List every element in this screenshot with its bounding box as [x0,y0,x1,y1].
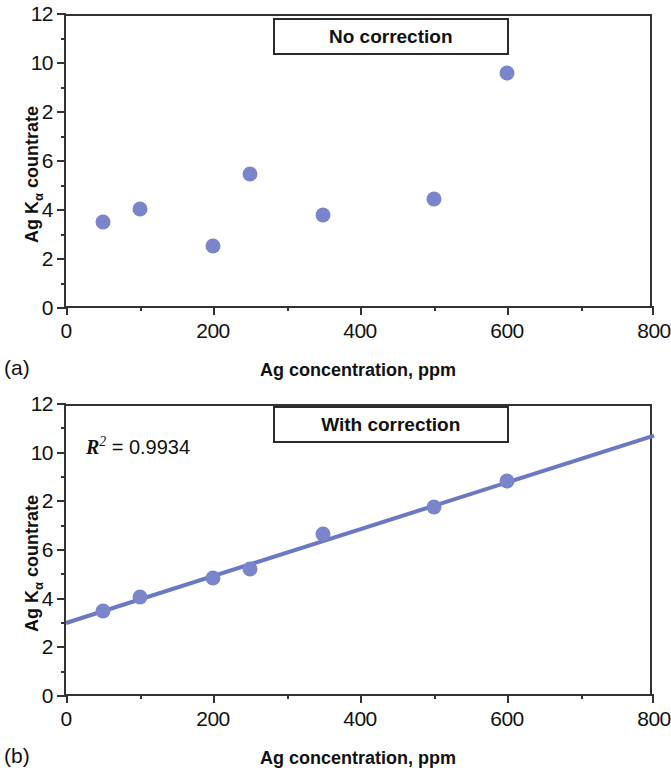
y-tick-label-10: 10 [31,51,53,75]
y-tick-2 [57,646,66,648]
y-minor-tick-5 [61,185,66,187]
panel-b-with-correction: 0246210120200400600800 With correction R… [0,390,670,772]
y-tick-label-10: 10 [31,441,53,465]
x-tick-label-400: 400 [343,319,377,343]
x-tick-label-0: 0 [60,319,71,343]
plot-area-a: 0246210120200400600800 [64,14,652,308]
x-tick-label-200: 200 [196,707,230,731]
data-point [206,570,221,585]
y-tick-label-0: 0 [42,684,53,708]
x-tick-label-600: 600 [490,707,524,731]
data-point [316,527,331,542]
plot-a: 0246210120200400600800 No correction [64,14,652,308]
y-tick-2 [57,258,66,260]
data-point [500,473,515,488]
panel-label-b: (b) [4,744,30,768]
y-tick-label-2: 2 [42,635,53,659]
x-tick-200 [213,306,215,315]
data-point [426,191,441,206]
x-tick-label-400: 400 [343,707,377,731]
y-minor-tick-1 [61,283,66,285]
y-axis-title-b: Ag Kα countrate [22,495,46,632]
y-tick-0 [57,307,66,309]
data-point [500,65,515,80]
panel-b-title-box: With correction [273,406,509,443]
panel-a-title-box: No correction [273,18,509,55]
x-tick-400 [360,306,362,315]
x-tick-0 [66,306,68,315]
y-tick-label-12: 12 [31,2,53,26]
x-axis-title-b: Ag concentration, ppm [260,748,456,769]
x-minor-tick-300 [287,306,289,311]
data-point [95,603,110,618]
y-tick-10 [57,452,66,454]
y-tick-6 [57,160,66,162]
x-minor-tick-100 [140,306,142,311]
y-tick-6 [57,549,66,551]
y-tick-8 [57,111,66,113]
panel-label-a: (a) [4,356,30,380]
y-minor-tick-3 [61,234,66,236]
data-point [242,167,257,182]
x-tick-600 [507,306,509,315]
data-point [132,590,147,605]
y-tick-label-2: 2 [42,247,53,271]
data-point [95,215,110,230]
panel-a-no-correction: 0246210120200400600800 No correction Ag … [0,0,670,390]
x-minor-tick-700 [581,306,583,311]
y-tick-label-12: 12 [31,392,53,416]
x-axis-title-a: Ag concentration, ppm [260,360,456,381]
x-tick-label-200: 200 [196,319,230,343]
plot-right-border-a [650,14,652,308]
data-point [132,201,147,216]
data-point [206,238,221,253]
y-tick-8 [57,500,66,502]
plot-b: 0246210120200400600800 With correction R… [64,404,652,696]
y-tick-label-0: 0 [42,296,53,320]
data-point [426,500,441,515]
y-tick-4 [57,598,66,600]
data-point [316,207,331,222]
y-minor-tick-11 [61,38,66,40]
r-squared-annotation: R2 = 0.9934 [86,434,190,459]
x-tick-label-600: 600 [490,319,524,343]
y-axis-title-a: Ag Kα countrate [22,106,46,243]
x-tick-label-800: 800 [637,707,671,731]
x-tick-800 [652,306,654,315]
y-minor-tick-9 [61,87,66,89]
y-minor-tick-7 [61,136,66,138]
plot-top-border-a [64,14,652,16]
y-tick-0 [57,695,66,697]
y-tick-4 [57,209,66,211]
x-tick-label-0: 0 [60,707,71,731]
y-tick-10 [57,62,66,64]
x-minor-tick-500 [434,306,436,311]
x-tick-label-800: 800 [637,319,671,343]
data-point [242,562,257,577]
